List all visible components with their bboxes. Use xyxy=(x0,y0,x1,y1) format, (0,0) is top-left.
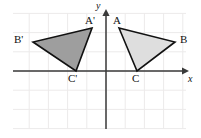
triangle-image-prime[interactable] xyxy=(33,28,92,71)
geometry-figure-canvas: A'B'C'ABCyx xyxy=(0,0,201,138)
vertex-label-c-prime: C' xyxy=(68,73,77,84)
vertex-label-c: C xyxy=(132,73,139,84)
axis-label-y: y xyxy=(96,1,100,11)
axis-label-x: x xyxy=(188,74,192,84)
vertex-label-a: A xyxy=(113,15,121,26)
vertex-label-b: B xyxy=(180,34,187,45)
axes xyxy=(13,9,189,129)
vertex-label-b-prime: B' xyxy=(14,34,23,45)
vertex-label-a-prime: A' xyxy=(85,15,95,26)
y-axis-arrowhead xyxy=(102,9,109,16)
triangles xyxy=(33,28,175,71)
coordinate-plane-svg xyxy=(0,0,201,138)
triangle-preimage[interactable] xyxy=(119,28,175,71)
